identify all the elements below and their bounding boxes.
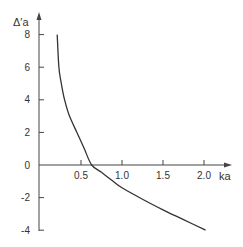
- x-tick-label: 0.5: [74, 170, 88, 181]
- y-axis-label: Δ′a: [13, 16, 29, 28]
- y-tick-label: 8: [24, 29, 30, 40]
- data-curve: [57, 35, 205, 231]
- x-axis-arrow-icon: [224, 163, 232, 168]
- chart: 86420-2-4 0.51.01.52.0 Δ′a ka: [0, 0, 243, 247]
- y-tick-label: 2: [24, 127, 30, 138]
- y-axis-arrow-icon: [37, 12, 42, 20]
- y-axis: 86420-2-4: [21, 12, 44, 236]
- y-tick-label: 0: [24, 160, 30, 171]
- x-tick-label: 1.0: [115, 170, 129, 181]
- x-axis-label: ka: [219, 170, 232, 182]
- y-tick-label: -2: [21, 192, 30, 203]
- y-tick-label: 4: [24, 94, 30, 105]
- x-tick-label: 2.0: [197, 170, 211, 181]
- y-tick-label: -4: [21, 225, 30, 236]
- x-tick-label: 1.5: [156, 170, 170, 181]
- x-axis: 0.51.01.52.0: [39, 160, 232, 181]
- y-tick-label: 6: [24, 62, 30, 73]
